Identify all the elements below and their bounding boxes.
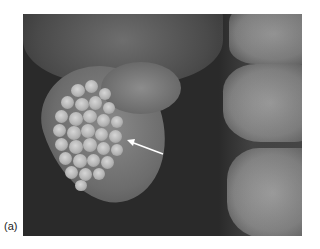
xray-image <box>23 14 302 236</box>
figure-label: (a) <box>4 220 17 232</box>
arrow-annotation <box>23 14 302 236</box>
